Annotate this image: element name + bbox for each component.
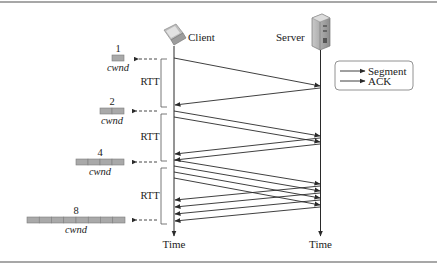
cwnd-label: cwnd — [107, 62, 130, 73]
rtt-bracket-2 — [161, 114, 167, 161]
cwnd-box — [27, 217, 39, 223]
cwnd-box — [88, 159, 100, 165]
rtt-label-1: RTT — [140, 76, 160, 87]
segment-arrow — [174, 178, 320, 205]
rtt-brackets — [161, 59, 167, 224]
cwnd-box — [64, 217, 76, 223]
rtt-label-3: RTT — [140, 190, 160, 201]
legend: Segment ACK — [335, 61, 413, 90]
cwnd-value: 1 — [115, 43, 120, 54]
cwnd-box — [39, 217, 51, 223]
cwnd-box — [112, 159, 124, 165]
rtt-bracket-3 — [161, 168, 167, 224]
server-icon — [312, 14, 330, 50]
cwnd-value: 2 — [109, 96, 114, 107]
server-time-label: Time — [309, 238, 332, 250]
cwnd-box — [112, 55, 124, 61]
cwnd-value: 4 — [97, 147, 103, 158]
segment-arrow — [174, 172, 320, 198]
client-time-label: Time — [163, 238, 186, 250]
cwnd-step-1: 1 cwnd — [107, 43, 130, 73]
cwnd-label: cwnd — [101, 115, 124, 126]
cwnd-box — [76, 159, 88, 165]
cwnd-box — [100, 159, 112, 165]
cwnd-box — [52, 217, 64, 223]
cwnd-label: cwnd — [65, 224, 88, 235]
cwnd-label: cwnd — [89, 166, 112, 177]
cwnd-box — [76, 217, 88, 223]
rtt-label-2: RTT — [140, 131, 160, 142]
cwnd-box — [113, 217, 125, 223]
cwnd-step-8: 8 cwnd — [27, 205, 125, 235]
cwnd-box — [88, 217, 100, 223]
client-label: Client — [188, 31, 215, 43]
slow-start-diagram: Client Server Time Time — [0, 0, 437, 270]
rtt-bracket-1 — [161, 59, 167, 107]
segment-arrow — [174, 160, 320, 184]
cwnd-box — [112, 108, 124, 114]
legend-ack-label: ACK — [368, 75, 391, 87]
ack-arrow — [175, 200, 320, 214]
segment-arrow — [174, 111, 320, 136]
segment-arrow — [174, 166, 320, 191]
cwnd-step-4: 4 cwnd — [76, 147, 124, 177]
ack-arrow — [175, 207, 320, 221]
segment-arrow — [174, 58, 320, 86]
ack-arrow — [175, 186, 320, 200]
cwnd-value: 8 — [73, 205, 78, 216]
message-arrows — [174, 58, 320, 221]
cwnd-box — [101, 217, 113, 223]
cwnd-box — [100, 108, 112, 114]
ack-arrow — [175, 193, 320, 207]
cwnd-step-2: 2 cwnd — [100, 96, 124, 126]
laptop-icon — [164, 24, 186, 45]
segment-arrow — [174, 117, 320, 142]
ack-arrow — [175, 88, 320, 105]
server-label: Server — [276, 31, 305, 43]
